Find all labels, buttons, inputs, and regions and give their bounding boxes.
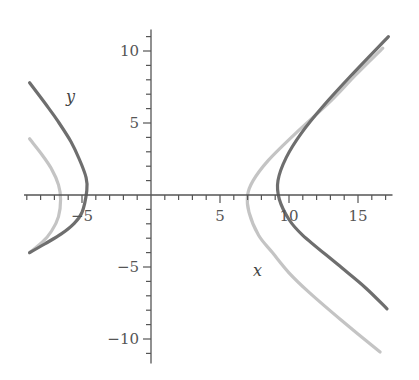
curve-original-hyperbola-right-branch [277, 37, 388, 309]
x-tick-label: −5 [71, 207, 93, 225]
x-tick-label: 10 [279, 207, 298, 225]
curve-transformed-hyperbola-right-branch [247, 48, 383, 352]
y-tick-label: −10 [107, 330, 139, 348]
hyperbola-chart: −551015105−5−10 y x [0, 0, 419, 380]
curves [30, 37, 389, 352]
y-tick-label: 10 [120, 42, 139, 60]
curve-original-hyperbola-left-branch [30, 83, 88, 253]
x-tick-label: 15 [348, 207, 367, 225]
y-tick-label: −5 [117, 258, 139, 276]
x-axis-label: x [253, 261, 262, 280]
axes: −551015105−5−10 [24, 29, 392, 363]
y-tick-label: 5 [129, 114, 139, 132]
y-axis-label: y [65, 87, 76, 106]
labels: y x [65, 87, 262, 280]
x-tick-label: 5 [215, 207, 225, 225]
